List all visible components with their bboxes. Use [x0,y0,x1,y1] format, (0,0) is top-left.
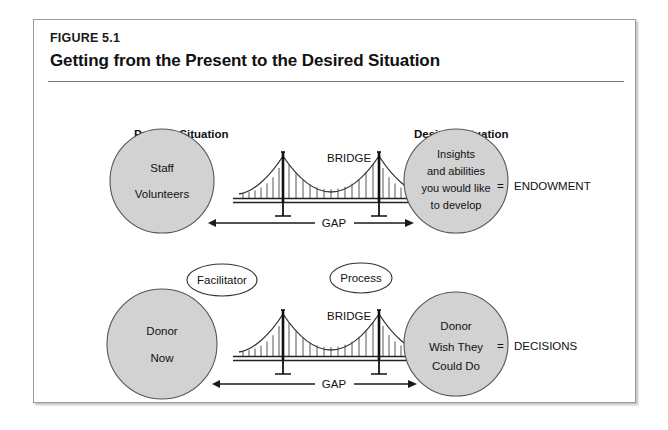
diagram-endowment: BRIDGE Staff Volunteers Insights and abi… [110,129,591,233]
diagram-decisions: Facilitator Process BRIDGE Donor Now Don… [107,263,578,399]
desired-circle-line-4: to develop [431,199,482,211]
desired-situation-circle-endowment [404,129,508,233]
present-circle-line-2: Volunteers [135,188,190,200]
gap-label-endowment: GAP [322,217,347,229]
figure-panel: FIGURE 5.1 Getting from the Present to t… [33,19,636,403]
donor-now-line-2: Now [150,352,174,364]
present-circle-line-1: Staff [150,162,174,174]
donor-wish-line-2: Wish They [429,341,483,353]
desired-circle-line-2: and abilities [427,165,486,177]
gap-label-decisions: GAP [322,378,347,390]
result-label-decisions: DECISIONS [514,340,578,352]
donor-wish-line-3: Could Do [432,360,480,372]
callout-process-label: Process [340,272,382,284]
callout-facilitator-label: Facilitator [197,274,247,286]
donor-wish-line-1: Donor [440,320,471,332]
figure-diagram-canvas: BRIDGE Staff Volunteers Insights and abi… [34,20,637,404]
present-situation-circle-endowment [110,129,214,233]
equals-sign-endowment: = [497,180,504,192]
result-label-endowment: ENDOWMENT [514,180,591,192]
donor-now-circle [107,289,217,399]
bridge-label-decisions: BRIDGE [327,310,371,322]
equals-sign-decisions: = [497,340,504,352]
bridge-label-endowment: BRIDGE [327,152,371,164]
donor-now-line-1: Donor [146,325,177,337]
desired-circle-line-3: you would like [421,182,490,194]
desired-circle-line-1: Insights [437,148,475,160]
